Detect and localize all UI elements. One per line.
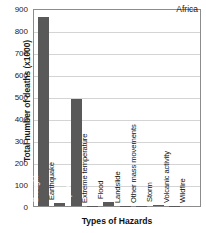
y-axis-tick-label: 0 <box>24 203 28 212</box>
y-axis-tick-label: 500 <box>15 93 28 102</box>
bar-slot: Drought <box>35 10 51 206</box>
bar-series: DroughtEarthquakeEpidemicExtreme tempera… <box>34 10 200 206</box>
bar-slot: Wildfire <box>183 10 199 206</box>
bar <box>103 202 114 206</box>
x-axis-title: Types of Hazards <box>33 216 201 226</box>
y-axis-tick-label: 200 <box>15 159 28 168</box>
bar <box>54 203 65 206</box>
bar-slot: Flood <box>101 10 117 206</box>
bar-slot: Extreme temperature <box>84 10 100 206</box>
bar-slot: Volcanic activity <box>166 10 182 206</box>
region-annotation: Africa <box>176 4 198 14</box>
y-axis-tick-labels: 9008007006005004003002001000 <box>2 0 30 233</box>
bar-slot: Epidemic <box>68 10 84 206</box>
bar-slot: Earthquake <box>51 10 67 206</box>
y-axis-tick-label: 900 <box>15 5 28 14</box>
bar <box>153 205 164 206</box>
y-axis-tick-label: 100 <box>15 181 28 190</box>
bar-slot: Landslide <box>117 10 133 206</box>
y-axis-tick-label: 800 <box>15 27 28 36</box>
bar <box>38 17 49 206</box>
y-axis-tick-label: 600 <box>15 71 28 80</box>
bar-slot: Other mass movements <box>133 10 149 206</box>
y-axis-tick-label: 700 <box>15 49 28 58</box>
bar-chart-figure: Total number of deaths (x1000) 900800700… <box>0 0 206 233</box>
plot-area: DroughtEarthquakeEpidemicExtreme tempera… <box>33 9 201 207</box>
y-axis-tick-label: 300 <box>15 137 28 146</box>
y-axis-tick-label: 400 <box>15 115 28 124</box>
bar-slot: Storm <box>150 10 166 206</box>
bar <box>71 99 82 206</box>
